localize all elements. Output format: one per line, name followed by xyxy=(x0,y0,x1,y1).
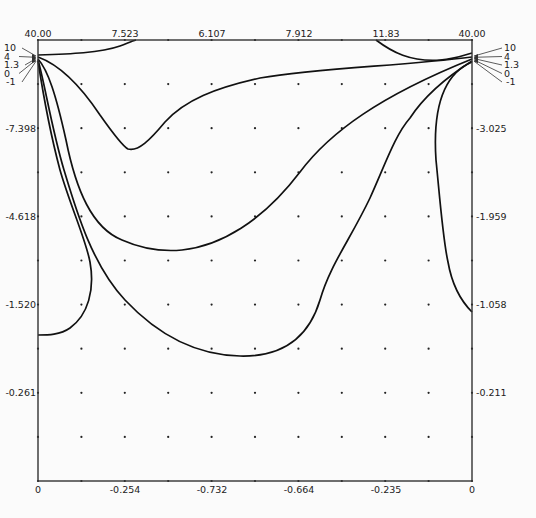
grid-dot xyxy=(428,304,430,306)
grid-dot xyxy=(297,348,299,350)
grid-dot xyxy=(428,348,430,350)
contour-line--1 xyxy=(435,62,472,312)
grid-dot xyxy=(124,392,126,394)
contour-level-label: -1 xyxy=(506,76,515,87)
grid-dot xyxy=(254,392,256,394)
contour-line-0 xyxy=(38,60,472,356)
grid-dot xyxy=(428,215,430,217)
grid-dot xyxy=(428,392,430,394)
grid-dot xyxy=(341,348,343,350)
grid-dot xyxy=(167,259,169,261)
grid-dot xyxy=(167,83,169,85)
contour-plot: 40.007.5236.1077.91211.8340.00 0-0.254-0… xyxy=(0,0,536,518)
contour-lines xyxy=(38,40,472,356)
grid-dot xyxy=(80,171,82,173)
grid-dot xyxy=(341,171,343,173)
contour-level-label: -1 xyxy=(6,76,15,87)
grid-dot xyxy=(254,127,256,129)
right-tick-label: -1.058 xyxy=(476,299,507,310)
grid-dot xyxy=(428,83,430,85)
grid-dot xyxy=(297,392,299,394)
grid-dot xyxy=(428,171,430,173)
grid-dot xyxy=(341,259,343,261)
grid-dot xyxy=(80,215,82,217)
right-tick-label: -3.025 xyxy=(476,123,507,134)
grid-dot xyxy=(167,171,169,173)
grid-dot xyxy=(384,171,386,173)
grid-dot xyxy=(80,304,82,306)
grid-dot xyxy=(167,215,169,217)
grid-dot xyxy=(211,436,213,438)
grid-dot xyxy=(384,348,386,350)
grid-dot xyxy=(167,436,169,438)
grid-dot xyxy=(124,83,126,85)
grid-dot xyxy=(384,83,386,85)
right-tick-label: -0.211 xyxy=(476,387,507,398)
grid-dot xyxy=(124,171,126,173)
grid-dot xyxy=(211,392,213,394)
grid-dot xyxy=(254,259,256,261)
bottom-tick-label: -0.732 xyxy=(197,484,228,495)
grid-dot xyxy=(341,215,343,217)
grid-dot xyxy=(124,436,126,438)
contour-line-1.3 xyxy=(38,59,472,251)
grid-dot xyxy=(297,436,299,438)
left-tick-label: -0.261 xyxy=(5,387,36,398)
grid-dot xyxy=(341,436,343,438)
grid-dot xyxy=(428,127,430,129)
right-contour-level-legend: 1041.30-1 xyxy=(474,42,519,87)
grid-dot xyxy=(167,392,169,394)
grid-dot xyxy=(428,259,430,261)
grid-dot xyxy=(384,436,386,438)
top-tick-label: 11.83 xyxy=(372,28,399,39)
grid-dot xyxy=(297,304,299,306)
grid-dot xyxy=(254,83,256,85)
grid-dot xyxy=(80,436,82,438)
top-tick-label: 40.00 xyxy=(458,28,485,39)
grid-dot xyxy=(254,348,256,350)
bottom-axis-labels: 0-0.254-0.732-0.664-0.2350 xyxy=(35,484,475,495)
bottom-tick-label: 0 xyxy=(35,484,41,495)
top-tick-label: 7.523 xyxy=(111,28,138,39)
top-tick-label: 40.00 xyxy=(24,28,51,39)
grid-dot xyxy=(384,215,386,217)
grid-dot xyxy=(341,304,343,306)
grid-dot xyxy=(124,127,126,129)
grid-dot xyxy=(124,259,126,261)
right-axis-labels: -3.025-1.959-1.058-0.211 xyxy=(476,123,507,398)
grid-dot xyxy=(254,171,256,173)
grid-dot xyxy=(124,215,126,217)
grid-dot xyxy=(384,127,386,129)
grid-dot xyxy=(124,348,126,350)
contour-line-10 xyxy=(38,40,136,55)
grid-dot xyxy=(341,392,343,394)
grid-dot xyxy=(211,83,213,85)
top-tick-label: 6.107 xyxy=(198,28,225,39)
grid-dot xyxy=(297,215,299,217)
right-tick-label: -1.959 xyxy=(476,211,507,222)
grid-dot xyxy=(297,83,299,85)
grid-dot xyxy=(211,215,213,217)
grid-dot xyxy=(80,392,82,394)
grid-dot xyxy=(211,171,213,173)
grid-dot xyxy=(297,127,299,129)
grid-dot xyxy=(211,259,213,261)
grid-dot xyxy=(211,348,213,350)
grid-dot xyxy=(167,127,169,129)
grid-dot xyxy=(211,304,213,306)
left-contour-level-legend: 1041.30-1 xyxy=(4,42,36,87)
chart-canvas: 40.007.5236.1077.91211.8340.00 0-0.254-0… xyxy=(0,0,536,518)
contour-line-10 xyxy=(376,40,472,60)
grid-dot xyxy=(254,304,256,306)
grid-dot xyxy=(384,304,386,306)
contour-line-4 xyxy=(38,57,472,149)
top-tick-label: 7.912 xyxy=(285,28,312,39)
left-tick-label: -7.398 xyxy=(5,123,36,134)
grid-dot xyxy=(297,259,299,261)
grid-dots xyxy=(37,39,473,482)
grid-dot xyxy=(80,83,82,85)
grid-dot xyxy=(384,259,386,261)
left-axis-labels: -7.398-4.618-1.520-0.261 xyxy=(5,123,36,398)
grid-dot xyxy=(341,83,343,85)
grid-dot xyxy=(124,304,126,306)
